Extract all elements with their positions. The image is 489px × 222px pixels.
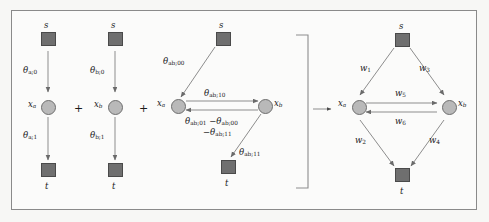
p3-source-label: s <box>219 21 223 30</box>
p2-edge-label-s-to-xb: θb;0 <box>90 66 104 76</box>
p3-edge-label-xb-to-xa-line2: −θab;11 <box>203 128 232 138</box>
p4-variable-b-node <box>442 100 457 115</box>
p3-edge-label-xb-to-t: θab;11 <box>239 148 261 158</box>
p3-edge-label-s-to-xa: θab;00 <box>163 57 185 67</box>
p2-edge-label-xb-to-t: θb;1 <box>90 131 104 141</box>
p1-variable-node <box>41 100 56 115</box>
operator-plus-2: + <box>139 103 148 114</box>
p3-edge-label-xa-to-xb: θab;10 <box>204 89 226 99</box>
p4-edge-label-w2: w2 <box>355 136 366 146</box>
p3-sink-label: t <box>225 179 228 188</box>
p2-sink-node <box>108 163 123 177</box>
p3-edge-label-xb-to-xa-line1: θab;01 −θab;00 <box>185 117 238 127</box>
p1-edge-label-xa-to-t: θa;1 <box>23 131 37 141</box>
p4-source-label: s <box>399 22 403 31</box>
p4-edge-label-w3: w3 <box>419 64 430 74</box>
p2-sink-label: t <box>112 182 115 191</box>
p2-variable-label: xb <box>94 100 103 110</box>
p3-variable-b-node <box>258 99 273 114</box>
figure-canvas: s xa t θa;0 θa;1 + s xb t θb;0 θb;1 + s … <box>0 0 489 222</box>
p3-source-node <box>216 32 231 46</box>
p1-source-node <box>41 32 56 46</box>
p2-source-node <box>108 32 123 46</box>
operator-plus-1: + <box>74 103 83 114</box>
p3-variable-a-label: xa <box>157 99 165 109</box>
p1-edge-label-s-to-xa: θa;0 <box>23 66 37 76</box>
p4-source-node <box>395 33 410 47</box>
p1-sink-label: t <box>45 182 48 191</box>
p4-variable-a-node <box>352 100 367 115</box>
p1-source-label: s <box>44 21 48 30</box>
p4-edge-label-w4: w4 <box>429 136 440 146</box>
p3-sink-node <box>221 160 236 174</box>
p1-sink-node <box>41 163 56 177</box>
p3-variable-b-label: xb <box>274 99 283 109</box>
p3-variable-a-node <box>171 99 186 114</box>
p4-edge-label-w6: w6 <box>395 117 406 127</box>
p1-variable-label: xa <box>28 100 36 110</box>
p4-edge-label-w1: w1 <box>360 64 371 74</box>
p4-edge-label-w5: w5 <box>395 89 406 99</box>
p4-sink-label: t <box>400 187 403 196</box>
p4-variable-a-label: xa <box>338 99 346 109</box>
p4-sink-node <box>395 168 410 182</box>
p2-variable-node <box>108 100 123 115</box>
p2-source-label: s <box>111 21 115 30</box>
p4-variable-b-label: xb <box>458 99 467 109</box>
